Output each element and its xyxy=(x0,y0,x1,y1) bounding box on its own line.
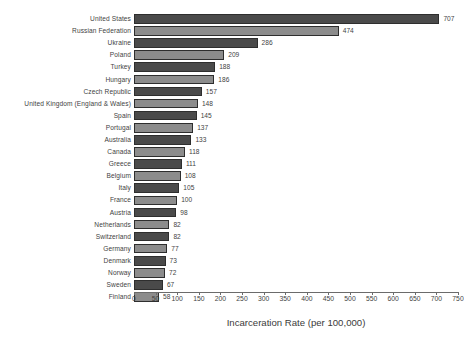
bar-fill xyxy=(134,14,439,24)
bar-value-label: 133 xyxy=(195,137,206,144)
bar xyxy=(134,62,215,72)
x-tick-label: 200 xyxy=(215,296,226,303)
bar xyxy=(134,268,165,278)
bar-fill xyxy=(134,50,224,60)
x-tick-label: 500 xyxy=(344,296,355,303)
category-label: Belgium xyxy=(106,173,131,180)
bar-value-label: 707 xyxy=(443,16,454,23)
bar-fill xyxy=(134,171,181,181)
bar-fill xyxy=(134,87,202,97)
bar-rows: United States707Russian Federation474Ukr… xyxy=(0,13,463,303)
bar xyxy=(134,280,163,290)
bar-row: Greece111 xyxy=(0,158,463,170)
bar xyxy=(134,135,191,145)
bar-row: Portugal137 xyxy=(0,122,463,134)
category-label: Denmark xyxy=(104,258,131,265)
bar xyxy=(134,111,197,121)
category-label: Netherlands xyxy=(94,221,131,228)
bar xyxy=(134,244,167,254)
bar-fill xyxy=(134,62,215,72)
category-label: Sweden xyxy=(107,282,131,289)
bar-row: Canada118 xyxy=(0,146,463,158)
bar-fill xyxy=(134,26,339,36)
bar-row: Belgium108 xyxy=(0,170,463,182)
bar xyxy=(134,99,198,109)
x-tick-label: 650 xyxy=(409,296,420,303)
category-label: Spain xyxy=(114,113,131,120)
bar-row: United Kingdom (England & Wales)148 xyxy=(0,98,463,110)
bar-row: Hungary186 xyxy=(0,73,463,85)
bar-value-label: 188 xyxy=(219,64,230,71)
bar-value-label: 67 xyxy=(167,282,174,289)
x-tick-label: 350 xyxy=(280,296,291,303)
x-tick-label: 750 xyxy=(452,296,463,303)
x-tick-label: 50 xyxy=(152,296,160,303)
bar-value-label: 82 xyxy=(173,221,180,228)
bar-value-label: 474 xyxy=(343,28,354,35)
bar-fill xyxy=(134,123,193,133)
bar-value-label: 186 xyxy=(218,76,229,83)
bar-row: Poland209 xyxy=(0,49,463,61)
category-label: United Kingdom (England & Wales) xyxy=(24,100,131,107)
bar xyxy=(134,208,176,218)
bar-value-label: 100 xyxy=(181,197,192,204)
bar-row: Germany77 xyxy=(0,243,463,255)
bar-fill xyxy=(134,135,191,145)
bar-value-label: 58 xyxy=(163,294,170,301)
bar-row: Australia133 xyxy=(0,134,463,146)
bar-value-label: 77 xyxy=(171,246,178,253)
bar-value-label: 108 xyxy=(185,173,196,180)
bar xyxy=(134,75,214,85)
category-label: Portugal xyxy=(106,125,131,132)
category-label: Ukraine xyxy=(108,40,131,47)
bar-value-label: 157 xyxy=(206,88,217,95)
bar xyxy=(134,159,182,169)
bar-row: Denmark73 xyxy=(0,255,463,267)
bar-fill xyxy=(134,220,169,230)
category-label: Switzerland xyxy=(96,233,131,240)
category-label: Turkey xyxy=(110,64,131,71)
bar xyxy=(134,220,169,230)
bar-row: Switzerland82 xyxy=(0,231,463,243)
category-label: Czech Republic xyxy=(83,88,131,95)
bar xyxy=(134,38,258,48)
bar xyxy=(134,196,177,206)
bar-fill xyxy=(134,147,185,157)
bar xyxy=(134,232,169,242)
category-label: United States xyxy=(90,16,131,23)
bar-value-label: 111 xyxy=(186,161,196,168)
bar-value-label: 286 xyxy=(262,40,273,47)
category-label: Finland xyxy=(109,294,131,301)
bar xyxy=(134,183,179,193)
bar-fill xyxy=(134,256,166,266)
bar xyxy=(134,26,339,36)
category-label: France xyxy=(110,197,131,204)
bar-fill xyxy=(134,280,163,290)
bar-fill xyxy=(134,232,169,242)
x-axis-title: Incarceration Rate (per 100,000) xyxy=(134,317,458,328)
category-label: Canada xyxy=(107,149,131,156)
bar-fill xyxy=(134,38,258,48)
category-label: Italy xyxy=(118,185,131,192)
bar xyxy=(134,87,202,97)
bar-fill xyxy=(134,75,214,85)
bar-row: Spain145 xyxy=(0,110,463,122)
category-label: Norway xyxy=(108,270,131,277)
bar xyxy=(134,147,185,157)
bar-row: Czech Republic157 xyxy=(0,86,463,98)
bar-value-label: 209 xyxy=(228,52,239,59)
bar-fill xyxy=(134,244,167,254)
bar-fill xyxy=(134,159,182,169)
x-tick-label: 250 xyxy=(236,296,247,303)
category-label: Poland xyxy=(110,52,131,59)
bar-value-label: 148 xyxy=(202,100,213,107)
bar-row: United States707 xyxy=(0,13,463,25)
bar xyxy=(134,171,181,181)
bar-fill xyxy=(134,208,176,218)
bar-value-label: 72 xyxy=(169,270,176,277)
bar-row: Sweden67 xyxy=(0,279,463,291)
x-tick-label: 300 xyxy=(258,296,269,303)
x-tick-label: 150 xyxy=(193,296,204,303)
bar-fill xyxy=(134,99,198,109)
